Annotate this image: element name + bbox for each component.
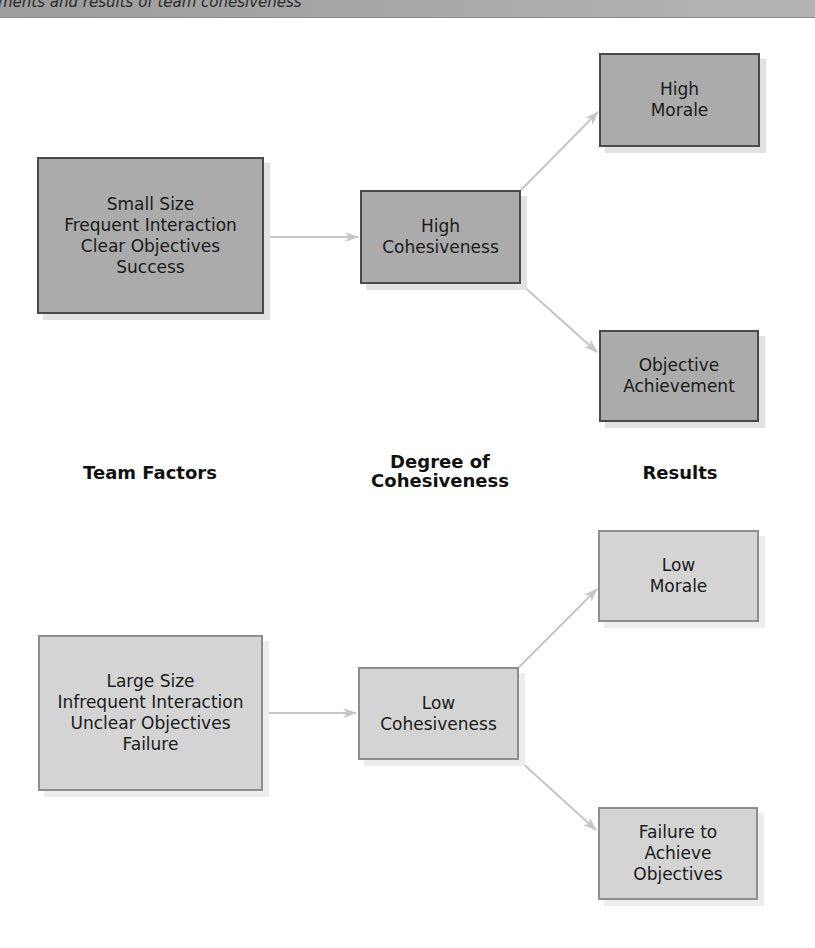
label-team-factors: Team Factors [60, 463, 240, 482]
result-line: High [651, 79, 709, 100]
arrow-high-to-morale [521, 112, 598, 190]
cohesiveness-word: Cohesiveness [380, 714, 497, 735]
label-degree-of-cohesiveness: Degree of Cohesiveness [340, 452, 540, 490]
arrow-high-to-achievement [521, 284, 597, 352]
high-cohesiveness-box: High Cohesiveness [360, 190, 521, 284]
factor-large-size: Large Size [58, 671, 244, 692]
label-results: Results [620, 463, 740, 482]
result-line: Morale [650, 576, 708, 597]
factor-infrequent-interaction: Infrequent Interaction [58, 692, 244, 713]
arrow-low-to-failure [519, 760, 596, 830]
low-team-factors-box: Large Size Infrequent Interaction Unclea… [38, 635, 263, 791]
cohesiveness-level: High [382, 216, 499, 237]
factor-failure: Failure [58, 734, 244, 755]
result-line: Failure to [633, 822, 722, 843]
result-line: Low [650, 555, 708, 576]
result-line: Morale [651, 100, 709, 121]
result-line: Achievement [623, 376, 735, 397]
factor-frequent-interaction: Frequent Interaction [64, 215, 237, 236]
cohesiveness-word: Cohesiveness [382, 237, 499, 258]
factor-small-size: Small Size [64, 194, 237, 215]
high-morale-box: High Morale [599, 53, 760, 147]
objective-achievement-box: Objective Achievement [599, 330, 759, 422]
result-line: Achieve [633, 843, 722, 864]
result-line: Objective [623, 355, 735, 376]
factor-unclear-objectives: Unclear Objectives [58, 713, 244, 734]
factor-clear-objectives: Clear Objectives [64, 236, 237, 257]
low-cohesiveness-box: Low Cohesiveness [358, 667, 519, 760]
failure-to-achieve-box: Failure to Achieve Objectives [598, 807, 758, 900]
cohesiveness-level: Low [380, 693, 497, 714]
low-morale-box: Low Morale [598, 530, 759, 622]
arrow-low-to-morale [519, 589, 597, 667]
high-team-factors-box: Small Size Frequent Interaction Clear Ob… [37, 157, 264, 314]
result-line: Objectives [633, 864, 722, 885]
factor-success: Success [64, 257, 237, 278]
